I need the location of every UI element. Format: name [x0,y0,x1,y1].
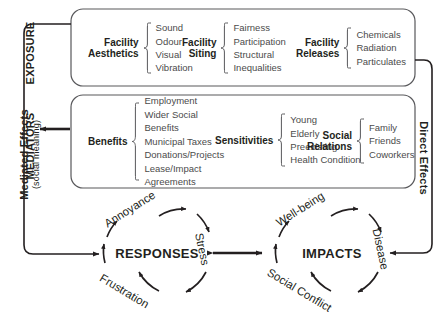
group-items: Employment Wider Social Benefits Municip… [144,94,224,188]
group-items: Fairness Participation Structural Inequa… [233,21,285,75]
group-items: Chemicals Radiation Particulates [356,28,406,68]
brace-icon [143,22,152,74]
group-facility-aesthetics: Facility Aesthetics Sound Odour Visual V… [88,22,193,74]
group-head: Facility Siting [182,37,216,59]
brace-icon [220,22,229,74]
group-head: Sensitivities [215,135,273,146]
group-facility-releases: Facility Releases Chemicals Radiation Pa… [296,27,406,69]
group-benefits: Benefits Employment Wider Social Benefit… [88,102,224,181]
group-head: Facility Aesthetics [88,37,139,59]
group-head: Benefits [88,136,127,147]
group-head: Facility Releases [296,37,339,59]
brace-icon [356,118,365,164]
group-head: Social Relations [307,130,352,152]
mediated-effects-title: Mediated Effects [18,109,30,200]
brace-icon [131,102,140,181]
brace-icon [277,113,286,167]
axis-label-direct-effects: Direct Effects [418,93,430,223]
group-items: Family Friends Coworkers [369,121,414,161]
group-facility-siting: Facility Siting Fairness Participation S… [182,22,286,74]
axis-label-mediated-effects: Mediated Effects (social meaning) [18,79,41,229]
group-social-relations: Social Relations Family Friends Coworker… [307,118,414,164]
brace-icon [343,27,352,69]
circle-core-impacts: IMPACTS [277,246,387,261]
mediated-effects-subtitle: (social meaning) [30,79,40,229]
